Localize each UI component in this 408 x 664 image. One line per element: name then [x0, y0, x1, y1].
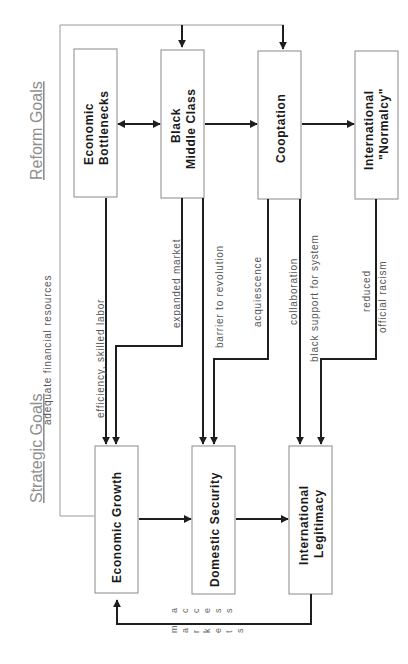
svg-text:m: m: [169, 626, 179, 634]
edge-label-acquiescence: acquiescence: [252, 256, 263, 327]
svg-text:a: a: [180, 628, 190, 633]
svg-text:a: a: [169, 608, 179, 613]
svg-text:s: s: [213, 608, 223, 613]
svg-text:c: c: [180, 608, 190, 613]
svg-text:k: k: [202, 628, 212, 633]
edge-label-official-racism: official racism: [377, 261, 388, 333]
box-economic-growth: Economic Growth: [95, 446, 138, 593]
svg-text:s: s: [224, 608, 234, 613]
edge-label-expanded-market: expanded market: [171, 239, 182, 328]
svg-text:e: e: [202, 608, 212, 613]
box-economic-bottlenecks: Economic Bottlenecks: [74, 49, 117, 197]
svg-text:t: t: [224, 630, 234, 633]
svg-text:Economic: Economic: [82, 103, 96, 165]
svg-text:s: s: [235, 628, 245, 633]
edge-label-efficiency-skilled-labor: efficiency, skilled labor: [95, 299, 106, 418]
svg-text:"Normalcy": "Normalcy": [377, 88, 391, 160]
edge-label-reduced: reduced: [361, 270, 372, 312]
box-domestic-security: Domestic Security: [192, 446, 235, 594]
reform-goals-heading: Reform Goals: [28, 81, 45, 180]
svg-text:e: e: [213, 628, 223, 633]
box-international-normalcy: International "Normalcy": [355, 51, 398, 199]
svg-text:c: c: [191, 608, 201, 613]
edge-label-collaboration: collaboration: [288, 258, 299, 325]
svg-text:Black: Black: [169, 108, 183, 143]
causal-diagram: Reform Goals Strategic Goals adequate fi…: [0, 0, 408, 664]
svg-text:Domestic Security: Domestic Security: [208, 472, 222, 587]
box-international-legitimacy: International Legitimacy: [289, 446, 332, 594]
svg-text:Cooptation: Cooptation: [274, 94, 288, 163]
svg-text:Bottlenecks: Bottlenecks: [97, 90, 111, 165]
edge-label-markets: m a r k e t s: [169, 626, 245, 634]
svg-text:International: International: [297, 485, 311, 565]
svg-text:International: International: [362, 90, 376, 170]
edge-label-access: a c c e s s: [169, 608, 234, 613]
edge-label-adequate-financial-resources: adequate financial resources: [42, 275, 53, 425]
box-black-middle-class: Black Middle Class: [161, 50, 204, 198]
arrow-normalcy-legitimacy: [321, 199, 376, 444]
edge-label-barrier-to-revolution: barrier to revolution: [214, 245, 225, 348]
svg-text:Legitimacy: Legitimacy: [312, 489, 326, 558]
svg-text:Economic Growth: Economic Growth: [110, 471, 124, 583]
edge-label-black-support-for-system: black support for system: [309, 234, 320, 362]
box-cooptation: Cooptation: [258, 51, 301, 199]
svg-text:Middle Class: Middle Class: [184, 88, 198, 169]
svg-text:r: r: [191, 630, 201, 633]
